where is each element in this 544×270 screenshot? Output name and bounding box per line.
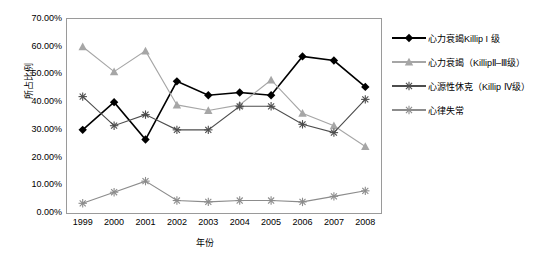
- legend-label: 心力衰竭Killip I 级: [426, 32, 500, 45]
- legend-marker-icon: [392, 80, 426, 92]
- legend-label: 心源性休克（Killip Ⅳ级）: [426, 80, 530, 93]
- chart-root: 所占比例 年份 0.00%10.00%20.00%30.00%40.00%50.…: [0, 0, 544, 270]
- series-1: [79, 43, 370, 151]
- legend-marker-icon: [392, 32, 426, 44]
- legend-marker-icon: [392, 56, 426, 68]
- legend-marker-icon: [392, 104, 426, 116]
- legend: 心力衰竭Killip I 级心力衰竭（KillipⅡ–Ⅲ级）心源性休克（Kill…: [392, 26, 540, 122]
- legend-item[interactable]: 心律失常: [392, 98, 540, 122]
- legend-item[interactable]: 心力衰竭（KillipⅡ–Ⅲ级）: [392, 50, 540, 74]
- legend-label: 心力衰竭（KillipⅡ–Ⅲ级）: [426, 56, 525, 69]
- legend-item[interactable]: 心源性休克（Killip Ⅳ级）: [392, 74, 540, 98]
- legend-label: 心律失常: [426, 104, 464, 117]
- series-2: [79, 92, 370, 136]
- legend-item[interactable]: 心力衰竭Killip I 级: [392, 26, 540, 50]
- series-3: [79, 177, 370, 208]
